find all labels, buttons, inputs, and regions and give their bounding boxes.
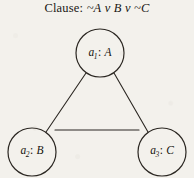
node-literal-a3: C <box>166 144 174 156</box>
node-separator-a3: : <box>160 144 164 156</box>
edge-a1-a2 <box>46 73 86 132</box>
node-label-a3: a3: C <box>138 145 186 157</box>
node-separator-a1: : <box>98 46 102 58</box>
node-literal-a1: A <box>105 46 112 58</box>
node-separator-a2: : <box>30 144 34 156</box>
clause-triangle-figure: Clause: ~A v B v ~C a1: A a2: B a3: C <box>0 0 194 178</box>
node-subscript-a2: 2 <box>26 150 30 159</box>
node-subscript-a3: 3 <box>155 150 159 159</box>
node-literal-a2: B <box>37 144 44 156</box>
node-label-a1: a1: A <box>76 47 124 59</box>
node-label-a2: a2: B <box>8 145 56 157</box>
edge-a1-a3 <box>114 73 148 132</box>
node-subscript-a1: 1 <box>94 52 98 61</box>
